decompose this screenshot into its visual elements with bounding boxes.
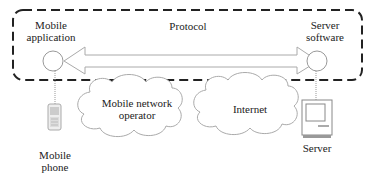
mobile-application-label-line1: Mobile (20, 19, 82, 31)
server-software-label-line2: software (298, 31, 352, 43)
mobile-phone-icon (48, 104, 61, 130)
mobile-phone-label: Mobile phone (30, 149, 80, 173)
mobile-network-operator-label: Mobile network operator (92, 97, 182, 121)
mobile-application-label-line2: application (20, 31, 82, 43)
mobile-network-operator-label-line2: operator (92, 109, 182, 121)
protocol-double-arrow (64, 47, 318, 74)
mobile-phone-label-line1: Mobile (30, 149, 80, 161)
mobile-network-operator-label-line1: Mobile network (92, 97, 182, 109)
mobile-application-label: Mobile application (20, 19, 82, 43)
protocol-label: Protocol (158, 20, 218, 32)
internet-label: Internet (220, 103, 280, 115)
server-software-label-line1: Server (298, 19, 352, 31)
server-software-label: Server software (298, 19, 352, 43)
server-label: Server (294, 142, 340, 154)
mobile-phone-label-line2: phone (30, 161, 80, 173)
server-icon (302, 100, 332, 138)
mobile-application-endpoint-icon (43, 51, 63, 71)
server-software-endpoint-icon (307, 51, 327, 71)
